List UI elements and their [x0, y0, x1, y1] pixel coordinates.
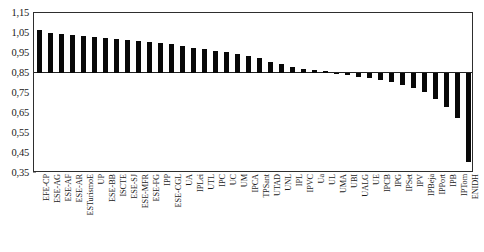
y-axis-tick-label: 0,45	[11, 147, 29, 158]
bar	[158, 43, 164, 73]
x-axis-tick-label: UTL	[204, 174, 213, 190]
bar	[180, 46, 186, 73]
bar	[389, 73, 395, 82]
bar	[378, 73, 384, 80]
x-axis-tick-label: ESE-SJ	[127, 174, 136, 199]
bar	[92, 37, 98, 73]
y-axis-tick-label: 0,35	[11, 167, 29, 178]
x-axis-tick-label: UE	[369, 174, 378, 185]
x-axis-tick-label: IPPort	[435, 174, 444, 195]
x-axis-tick-label: UC	[226, 174, 235, 185]
bar	[37, 30, 43, 73]
x-axis-tick-label: ESE-FG	[149, 174, 158, 202]
y-axis-tick-label: 1,15	[11, 7, 29, 18]
x-axis-tick-label: EFE-CP	[39, 174, 48, 201]
x-axis-tick-label: IPV	[413, 174, 422, 187]
bar	[367, 73, 373, 78]
bar	[114, 39, 120, 73]
plot-area	[33, 12, 473, 172]
x-axis-tick-label: IPCA	[248, 174, 257, 193]
bar	[169, 44, 175, 73]
bar	[235, 54, 241, 73]
bar	[323, 71, 329, 73]
y-axis-tick-label: 0,95	[11, 47, 29, 58]
x-axis-tick-label: IPB	[446, 174, 455, 187]
x-axis-tick-label: ESE-CGL	[171, 174, 180, 207]
x-axis-tick-label: IPC	[215, 174, 224, 187]
x-axis-tick-label: ENIDH	[468, 174, 477, 199]
bar	[257, 58, 263, 73]
x-axis-tick-label: IPBeja	[424, 174, 433, 196]
y-axis-tick-label: 0,55	[11, 127, 29, 138]
baseline-reference-line	[34, 72, 472, 73]
x-axis-tick-label: UP	[94, 174, 103, 184]
y-axis-tick-label: 0,85	[11, 67, 29, 78]
x-axis-tick-label: IPL	[292, 174, 301, 186]
x-axis-tick-label: UNL	[281, 174, 290, 191]
x-axis-tick-label: IPTom	[457, 174, 466, 196]
x-axis-tick-label: ESE-AF	[61, 174, 70, 202]
y-axis-tick-label: 0,75	[11, 87, 29, 98]
x-axis-tick-label: IPCB	[380, 174, 389, 192]
bar	[125, 40, 131, 73]
bar	[444, 73, 450, 107]
bar	[48, 33, 54, 73]
x-axis-tick-label: IPSet	[402, 174, 411, 191]
x-axis-tick-label: ESE-AR	[72, 174, 81, 202]
bar	[312, 70, 318, 73]
bar	[290, 67, 296, 73]
x-axis-tick-label: UM	[237, 174, 246, 187]
bar	[81, 36, 87, 73]
x-axis-tick-label: IPLei	[193, 174, 202, 192]
bar	[103, 38, 109, 73]
x-axis-tick-label: UBI	[347, 174, 356, 188]
bar	[246, 56, 252, 73]
x-axis-tick-label: ISCTE	[116, 174, 125, 197]
x-axis-tick-label: UTAD	[270, 174, 279, 196]
y-axis: 1,151,050,950,850,750,650,550,450,35	[0, 0, 33, 180]
bar	[202, 49, 208, 73]
bar	[301, 69, 307, 73]
bar	[422, 73, 428, 92]
bar	[433, 73, 439, 99]
x-axis-tick-label: UALG	[358, 174, 367, 197]
x-axis-labels: EFE-CPESE-AGESE-AFESE-ARESTurismoEUPESE-…	[33, 174, 473, 252]
bar	[70, 35, 76, 73]
y-axis-tick-label: 0,65	[11, 107, 29, 118]
bar	[191, 48, 197, 73]
bar	[268, 62, 274, 73]
x-axis-tick-label: ESTurismoE	[83, 174, 92, 216]
bar	[334, 73, 340, 74]
x-axis-tick-label: IPP	[160, 174, 169, 186]
bar	[279, 64, 285, 73]
bar	[345, 73, 351, 75]
bar	[136, 41, 142, 73]
bar	[400, 73, 406, 85]
x-axis-tick-label: Ua	[314, 174, 323, 183]
x-axis-tick-label: UMA	[336, 174, 345, 193]
x-axis-tick-label: TPSant	[259, 174, 268, 198]
x-axis-tick-label: UL	[325, 174, 334, 185]
x-axis-tick-label: ESE-MFR	[138, 174, 147, 208]
x-axis-tick-label: UA	[182, 174, 191, 186]
x-axis-tick-label: ESE-AG	[50, 174, 59, 203]
bar	[213, 51, 219, 73]
x-axis-tick-label: IPVC	[303, 174, 312, 193]
bar	[59, 34, 65, 73]
x-axis-tick-label: IPG	[391, 174, 400, 187]
bar	[147, 42, 153, 73]
y-axis-tick-label: 1,05	[11, 27, 29, 38]
bar-chart: 1,151,050,950,850,750,650,550,450,35 EFE…	[0, 0, 484, 252]
bar	[455, 73, 461, 118]
bar	[356, 73, 362, 77]
bar	[466, 73, 472, 162]
bar	[411, 73, 417, 88]
bar	[224, 52, 230, 73]
x-axis-tick-label: ESE-BB	[105, 174, 114, 202]
